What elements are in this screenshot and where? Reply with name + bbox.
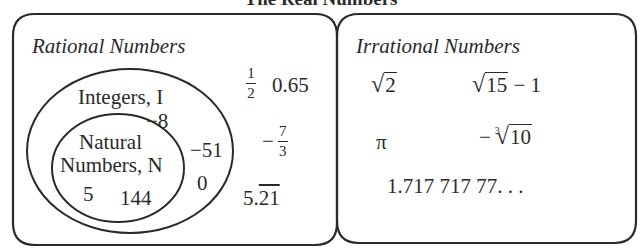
fraction-one-half: 1 2	[246, 66, 256, 101]
minus-sign: −	[262, 131, 274, 152]
denominator: 2	[247, 86, 255, 101]
denominator: 3	[279, 144, 287, 159]
fraction-bar	[278, 141, 288, 142]
rational-member-decimal: 0.65	[272, 75, 309, 96]
natural-numbers-label-line1: Natural	[79, 132, 142, 153]
sqrt-15-minus-1: √15 − 1	[472, 72, 541, 96]
natural-member: 144	[120, 188, 152, 209]
root-index: 3	[495, 125, 500, 136]
fraction-neg-seven-thirds: − 7 3	[262, 124, 288, 159]
radicand: 15	[485, 72, 508, 97]
rational-numbers-title: Rational Numbers	[32, 36, 185, 57]
numerator: 1	[247, 66, 255, 81]
natural-member: 5	[83, 184, 94, 205]
sqrt-2: √2	[371, 72, 397, 96]
irrational-numbers-title: Irrational Numbers	[356, 36, 520, 57]
radical-icon: √	[472, 71, 485, 97]
radicand: 2	[384, 72, 397, 97]
radical-icon: √	[371, 71, 384, 97]
radicand: 10	[509, 124, 532, 149]
fraction-bar	[246, 83, 256, 84]
minus-sign: −	[479, 125, 491, 149]
pi: π	[376, 132, 387, 153]
repeating-decimal-int: 5.	[243, 186, 259, 210]
numerator: 7	[279, 124, 287, 139]
repeating-decimal-period: 21	[259, 186, 280, 210]
minus-one: − 1	[508, 73, 541, 97]
real-numbers-diagram: The Real Numbers Rational Numbers Intege…	[0, 0, 642, 249]
irrational-decimal: 1.717 717 77. . .	[387, 176, 524, 197]
integer-member: −8	[146, 111, 168, 132]
integer-member: −51	[190, 140, 223, 161]
integer-member: 0	[197, 173, 208, 194]
repeating-decimal: 5.21	[243, 188, 280, 209]
natural-numbers-label-line2: Numbers, N	[60, 155, 163, 176]
integers-label: Integers, I	[78, 87, 163, 108]
neg-cube-root-10: −3√10	[479, 124, 532, 148]
